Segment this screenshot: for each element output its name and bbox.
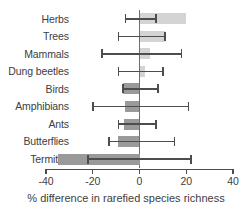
- error-bar-cap: [157, 84, 159, 93]
- error-bar-line: [88, 158, 191, 160]
- chart-row: [46, 150, 233, 168]
- error-bar-line: [125, 18, 155, 20]
- error-bar-cap: [181, 49, 183, 58]
- error-bar-cap: [162, 67, 164, 76]
- error-bar-cap: [118, 67, 120, 76]
- chart-row: [46, 133, 233, 151]
- x-axis-tick-label: -40: [38, 174, 53, 188]
- error-bar-line: [118, 123, 155, 125]
- chart-row: [46, 80, 233, 98]
- x-axis-tick-label: 40: [227, 174, 239, 188]
- error-bar-line: [109, 141, 174, 143]
- error-bar-cap: [92, 102, 94, 111]
- species-richness-bar-chart: Herbs Trees Mammals Dung beetles Birds A…: [0, 0, 252, 219]
- error-bar-cap: [188, 102, 190, 111]
- x-axis-tick-label: -20: [85, 174, 100, 188]
- plot-area: [46, 10, 233, 168]
- error-bar-cap: [101, 49, 103, 58]
- x-axis-tick-label: 20: [180, 174, 192, 188]
- x-axis-title: % difference in rarefied species richnes…: [0, 192, 252, 204]
- chart-row: [46, 45, 233, 63]
- chart-row: [46, 28, 233, 46]
- error-bar-cap: [155, 14, 157, 23]
- x-axis-line: [46, 169, 233, 170]
- error-bar-cap: [190, 155, 192, 164]
- chart-row: [46, 10, 233, 28]
- error-bar-line: [118, 71, 162, 73]
- error-bar-cap: [118, 120, 120, 129]
- x-axis-tick-label: 0: [137, 174, 143, 188]
- error-bar-cap: [118, 32, 120, 41]
- chart-row: [46, 98, 233, 116]
- chart-row: [46, 63, 233, 81]
- error-bar-cap: [125, 14, 127, 23]
- x-axis-tick-labels: -40-2002040: [0, 174, 252, 188]
- error-bar-cap: [108, 137, 110, 146]
- chart-row: [46, 115, 233, 133]
- error-bar-cap: [174, 137, 176, 146]
- error-bar-line: [102, 53, 181, 55]
- error-bar-cap: [87, 155, 89, 164]
- error-bar-line: [93, 106, 189, 108]
- error-bar-cap: [155, 120, 157, 129]
- error-bar-cap: [164, 32, 166, 41]
- error-bar-cap: [122, 84, 124, 93]
- error-bar-line: [123, 88, 158, 90]
- error-bar-line: [118, 36, 165, 38]
